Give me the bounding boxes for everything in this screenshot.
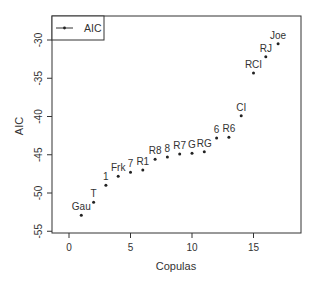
legend-point-icon — [63, 27, 66, 30]
point-marker — [80, 214, 83, 217]
point-marker — [141, 169, 144, 172]
y-tick-label: -30 — [33, 32, 44, 47]
point-label: Gau — [72, 201, 91, 212]
data-point: R7 — [173, 140, 186, 156]
point-label: R8 — [149, 145, 162, 156]
point-label: R1 — [136, 156, 149, 167]
point-marker — [117, 175, 120, 178]
x-tick-label: 15 — [248, 242, 260, 253]
x-tick-label: 10 — [186, 242, 198, 253]
data-point: T — [91, 188, 97, 204]
data-point: 7 — [128, 158, 134, 174]
y-axis: -55-50-45-40-35-30 — [33, 32, 52, 238]
point-label: 8 — [165, 143, 171, 154]
x-tick-label: 5 — [128, 242, 134, 253]
data-point: 1 — [103, 171, 109, 187]
legend: AIC — [52, 16, 104, 40]
x-axis-label: Copulas — [156, 260, 197, 272]
point-marker — [104, 184, 107, 187]
data-point: CI — [236, 102, 246, 118]
point-label: Joe — [270, 30, 287, 41]
point-marker — [215, 136, 218, 139]
point-marker — [166, 156, 169, 159]
point-marker — [227, 136, 230, 139]
data-point: 6 — [214, 124, 220, 140]
data-points: GauT1Frk7R1R88R7GRG6R6CIRCIRJJoe — [72, 30, 287, 217]
data-point: R6 — [223, 123, 236, 139]
point-label: R7 — [173, 140, 186, 151]
point-marker — [178, 152, 181, 155]
data-point: RG — [197, 138, 212, 154]
point-label: 6 — [214, 124, 220, 135]
point-marker — [252, 71, 255, 74]
point-marker — [92, 201, 95, 204]
y-axis-label: AIC — [13, 117, 25, 135]
data-point: RCI — [245, 59, 262, 75]
point-label: T — [91, 188, 97, 199]
point-label: RCI — [245, 59, 262, 70]
data-point: G — [188, 139, 196, 155]
point-label: Frk — [111, 162, 126, 173]
legend-label: AIC — [84, 22, 102, 34]
point-marker — [277, 42, 280, 45]
x-tick-label: 0 — [66, 242, 72, 253]
data-point: R8 — [149, 145, 162, 161]
y-tick-label: -40 — [33, 109, 44, 124]
data-point: RJ — [260, 43, 272, 59]
data-point: Gau — [72, 201, 91, 217]
data-point: R1 — [136, 156, 149, 172]
point-marker — [129, 171, 132, 174]
point-marker — [203, 150, 206, 153]
data-point: Joe — [270, 30, 287, 46]
x-axis: 051015 — [66, 233, 259, 253]
point-label: R6 — [223, 123, 236, 134]
point-label: 1 — [103, 171, 109, 182]
point-label: 7 — [128, 158, 134, 169]
y-tick-label: -45 — [33, 147, 44, 162]
aic-scatter-chart: 051015 -55-50-45-40-35-30 Copulas AIC Ga… — [0, 0, 313, 285]
point-label: G — [188, 139, 196, 150]
y-tick-label: -50 — [33, 185, 44, 200]
y-tick-label: -55 — [33, 224, 44, 239]
point-marker — [154, 158, 157, 161]
point-label: CI — [236, 102, 246, 113]
point-label: RG — [197, 138, 212, 149]
data-point: Frk — [111, 162, 126, 178]
point-marker — [191, 152, 194, 155]
y-tick-label: -35 — [33, 71, 44, 86]
point-label: RJ — [260, 43, 272, 54]
point-marker — [240, 114, 243, 117]
point-marker — [264, 55, 267, 58]
data-point: 8 — [165, 143, 171, 159]
